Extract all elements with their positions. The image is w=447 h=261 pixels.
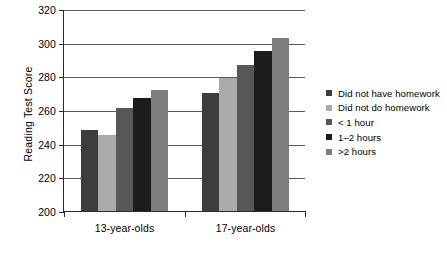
gridline [64,44,305,45]
y-tick-mark [59,145,64,146]
y-tick-label: 220 [38,172,56,184]
x-tick-mark [185,211,186,217]
legend-label: Did not do homework [338,102,430,113]
legend-label: < 1 hour [338,117,374,128]
legend-swatch-icon [326,149,332,155]
bar [202,93,220,211]
y-tick-label: 280 [38,71,56,83]
bar [151,90,169,211]
y-axis-title: Reading Test Score [22,34,34,194]
plot-area: 200220240260280300320 13-year-olds17-yea… [63,10,305,212]
bar [254,51,272,211]
y-tick-mark [59,44,64,45]
legend-item: Did not have homework [326,86,446,101]
legend-swatch-icon [326,90,332,96]
x-tick-mark [305,211,306,217]
legend-label: 1–2 hours [338,132,381,143]
bar [81,130,99,211]
bar [98,135,116,211]
y-tick-mark [59,10,64,11]
bar [272,38,290,211]
legend-swatch-icon [326,119,332,125]
bar [237,65,255,211]
x-tick-mark [64,211,65,217]
y-tick-label: 300 [38,38,56,50]
legend-swatch-icon [326,134,332,140]
y-tick-label: 320 [38,4,56,16]
legend-item: >2 hours [326,144,446,159]
x-group-label: 17-year-olds [216,222,276,234]
y-tick-mark [59,77,64,78]
legend-label: Did not have homework [338,88,440,99]
bar [116,108,134,211]
legend-item: Did not do homework [326,101,446,116]
gridline [64,10,305,11]
reading-test-score-bar-chart: Reading Test Score 200220240260280300320… [0,0,447,261]
bar [133,98,151,211]
legend-label: >2 hours [338,146,376,157]
y-tick-label: 240 [38,139,56,151]
y-tick-mark [59,111,64,112]
chart-legend: Did not have homeworkDid not do homework… [326,86,446,159]
y-tick-mark [59,178,64,179]
y-tick-label: 200 [38,206,56,218]
x-group-label: 13-year-olds [95,222,155,234]
legend-item: 1–2 hours [326,130,446,145]
legend-swatch-icon [326,105,332,111]
legend-item: < 1 hour [326,115,446,130]
bar [219,78,237,211]
y-tick-label: 260 [38,105,56,117]
